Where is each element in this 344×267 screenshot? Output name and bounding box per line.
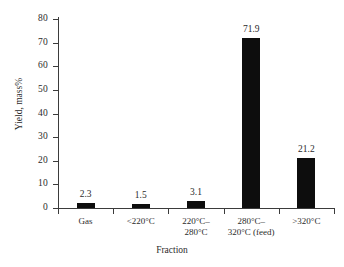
y-axis-tick: [53, 90, 58, 91]
bar: [187, 201, 205, 208]
bar-value-label: 2.3: [62, 190, 110, 200]
y-axis-tick: [53, 137, 58, 138]
x-axis-tick: [168, 209, 169, 214]
x-axis-title: Fraction: [0, 245, 344, 255]
x-axis-line: [58, 208, 335, 209]
y-axis-tick: [53, 184, 58, 185]
x-axis-tick: [334, 209, 335, 214]
y-axis-tick: [53, 43, 58, 44]
x-axis-category-label: <220°C: [113, 216, 168, 227]
chart-page: 01020304050607080 2.31.53.171.921.2 Gas<…: [0, 0, 344, 267]
bar-value-label: 71.9: [227, 25, 275, 35]
bar: [297, 158, 315, 208]
y-axis-tick: [53, 66, 58, 67]
y-axis-title: Yield, mass%: [14, 78, 24, 130]
bar-value-label: 21.2: [282, 145, 330, 155]
y-axis-line: [58, 17, 59, 209]
bar: [77, 203, 95, 208]
x-axis-tick: [224, 209, 225, 214]
y-axis-title-container: Yield, mass%: [10, 0, 28, 208]
y-axis-tick: [53, 19, 58, 20]
x-axis-category-label: 220°C– 280°C: [168, 216, 223, 238]
x-axis-category-label: >320°C: [279, 216, 334, 227]
x-axis-tick: [58, 209, 59, 214]
bar: [132, 204, 150, 208]
bar: [242, 38, 260, 208]
x-axis-tick: [113, 209, 114, 214]
x-axis-category-label: Gas: [58, 216, 113, 227]
y-axis-tick: [53, 114, 58, 115]
bar-value-label: 1.5: [117, 191, 165, 201]
bar-chart-figure: 01020304050607080 2.31.53.171.921.2 Gas<…: [0, 0, 344, 267]
x-axis-category-label: 280°C– 320°C (feed): [224, 216, 279, 238]
x-axis-tick: [279, 209, 280, 214]
y-axis-tick: [53, 161, 58, 162]
bar-value-label: 3.1: [172, 188, 220, 198]
